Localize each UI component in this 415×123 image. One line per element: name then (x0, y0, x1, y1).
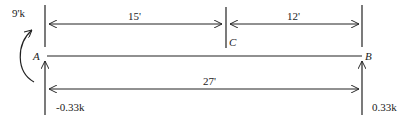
dimension-label-27: 27' (203, 75, 216, 87)
moment-label: 9'k (12, 7, 25, 19)
dimension-label-15: 15' (128, 10, 141, 22)
reaction-label-a: -0.33k (56, 101, 85, 113)
point-label-b: B (365, 50, 372, 62)
reaction-label-b: 0.33k (372, 101, 397, 113)
beam-diagram: 9'k A C B 15' 12' 27' -0.33k 0.33k (0, 0, 415, 123)
dimension-label-12: 12' (287, 10, 300, 22)
point-label-c: C (229, 36, 237, 48)
moment-arrow-icon (20, 30, 34, 82)
point-label-a: A (32, 50, 40, 62)
